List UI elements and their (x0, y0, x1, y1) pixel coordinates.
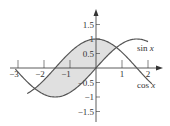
x-tick-label: −3 (9, 69, 19, 79)
function-plot: −3−2−112 1.510.5−0.5−1−1.5 sin x cos x (0, 0, 170, 126)
x-tick-label: −1 (61, 69, 71, 79)
x-axis-arrow-icon (156, 66, 163, 71)
x-tick-label: −2 (35, 69, 45, 79)
y-tick-label: −1.5 (78, 107, 95, 117)
y-tick-label: 1.5 (83, 20, 95, 30)
sin-label: sin x (137, 43, 154, 53)
x-tick-label: 1 (120, 69, 125, 79)
x-tick-label: 2 (146, 69, 151, 79)
y-tick-label: −1 (84, 92, 94, 102)
y-tick-label: 0.5 (83, 49, 95, 59)
cos-label: cos x (137, 80, 155, 90)
y-axis-arrow-icon (94, 9, 99, 16)
